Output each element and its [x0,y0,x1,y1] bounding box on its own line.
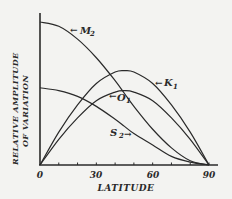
series-label-s2-main: S [110,127,117,138]
tidal-amplitude-chart: 0 30 60 90 LATITUDE RELATIVE AMPLITUDE O… [0,0,232,199]
series-label-o1-main: O [117,92,126,103]
y-axis-label-line2: OF VARIATION [20,75,30,147]
series-label-k1-sub: 1 [173,82,178,91]
x-tick-label: 90 [203,170,216,180]
x-tick-label: 0 [37,170,44,180]
y-axis-label: RELATIVE AMPLITUDE OF VARIATION [10,52,30,166]
x-tick-labels: 0 30 60 90 [37,170,216,180]
series-label-m2-sub: 2 [89,29,95,38]
svg-text:←: ← [155,78,163,88]
series-label-s2: S 2 → [110,127,132,140]
svg-text:→: → [124,129,132,139]
series-line-k1 [40,71,209,165]
y-axis-label-line1: RELATIVE AMPLITUDE [10,52,20,166]
x-tick-label: 30 [90,170,103,180]
x-tick-label: 60 [147,170,160,180]
svg-text:←: ← [109,91,117,101]
series-label-o1-sub: 1 [126,96,131,105]
series-label-o1: ← O 1 [109,91,131,105]
svg-text:←: ← [70,25,78,35]
x-axis-label: LATITUDE [97,183,155,193]
